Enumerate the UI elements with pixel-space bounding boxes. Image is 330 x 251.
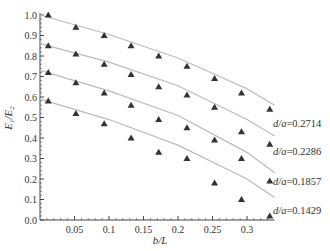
y-tick-label: 0.7 [25,71,38,82]
x-tick-label: 0.05 [66,224,84,235]
series-label: d/a=0.2286 [273,146,321,157]
triangle-marker [155,149,162,155]
x-tick-label: 0.25 [204,224,222,235]
x-tick-label: 0.1 [103,224,116,235]
y-tick-label: 0.9 [25,30,38,41]
axes: 0.00.10.20.30.40.50.60.70.80.91.00.050.1… [25,10,275,236]
triangle-marker [128,135,135,141]
chart: 0.00.10.20.30.40.50.60.70.80.91.00.050.1… [0,0,330,251]
triangle-marker [211,137,218,143]
triangle-marker [183,124,190,130]
triangle-marker [183,155,190,161]
y-tick-label: 0.8 [25,51,38,62]
y-tick-label: 0.1 [25,194,38,205]
triangle-marker [238,89,245,95]
y-tick-label: 0.4 [25,133,38,144]
y-tick-label: 0.2 [25,174,38,185]
x-axis-label: b/L [153,234,168,246]
triangle-marker [45,12,52,18]
triangle-marker [238,196,245,202]
triangle-marker [183,91,190,97]
series-label: d/a=0.1429 [273,205,321,216]
svg-text:E1/E2: E1/E2 [2,106,16,131]
y-tick-label: 0.5 [25,112,38,123]
x-tick-label: 0.15 [135,224,153,235]
triangle-marker [211,180,218,186]
y-tick-label: 0.3 [25,153,38,164]
triangle-marker [238,128,245,134]
triangle-marker [155,53,162,59]
data-points [45,12,273,219]
triangle-marker [128,71,135,77]
y-tick-label: 0.6 [25,92,38,103]
series-labels: d/a=0.2714d/a=0.2286d/a=0.1857d/a=0.1429 [273,118,322,216]
triangle-marker [266,106,273,112]
y-axis-label: E1/E2 [2,106,16,131]
triangle-marker [128,102,135,108]
y-tick-label: 0.0 [25,215,38,226]
triangle-marker [155,83,162,89]
series-label: d/a=0.2714 [273,118,322,129]
x-tick-label: 0.2 [172,224,185,235]
fit-lines [40,15,275,197]
triangle-marker [155,116,162,122]
series-label: d/a=0.1857 [273,176,321,187]
triangle-marker [101,120,108,126]
x-tick-label: 0.3 [241,224,254,235]
triangle-marker [238,155,245,161]
y-tick-label: 1.0 [25,10,38,21]
